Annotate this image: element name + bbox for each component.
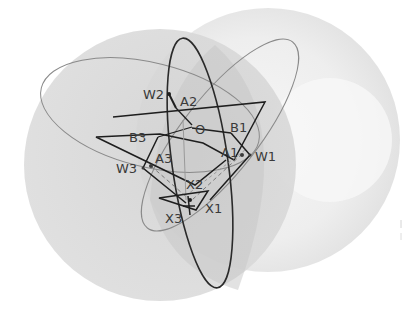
sphere-diagram: W2 A2 O B1 B3 A3 A1 W1 W3 X2 X1 X3 <box>0 0 420 318</box>
label-a2: A2 <box>180 94 197 109</box>
label-x1: X1 <box>205 201 222 216</box>
label-a1: A1 <box>221 145 238 160</box>
label-w3: W3 <box>116 161 137 176</box>
point-w3 <box>142 167 145 170</box>
label-a3: A3 <box>155 151 172 166</box>
point-x <box>188 198 192 202</box>
label-b1: B1 <box>230 120 247 135</box>
point-w1 <box>249 154 252 157</box>
point-w2 <box>167 92 171 96</box>
label-o: O <box>195 122 205 137</box>
label-w2: W2 <box>143 87 164 102</box>
label-b3: B3 <box>129 130 146 145</box>
label-w1: W1 <box>255 149 276 164</box>
label-x2: X2 <box>186 177 203 192</box>
point-a3 <box>149 164 153 168</box>
point-a1 <box>240 153 244 157</box>
label-x3: X3 <box>165 211 182 226</box>
